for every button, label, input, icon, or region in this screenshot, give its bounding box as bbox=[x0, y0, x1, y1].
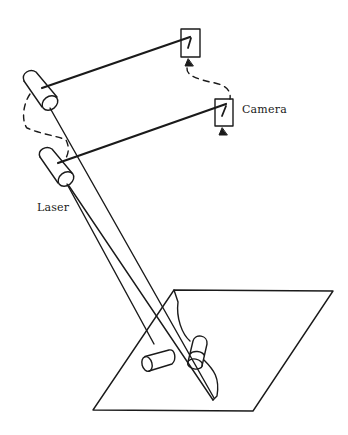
camera-upper bbox=[181, 29, 200, 66]
diagram-canvas bbox=[0, 0, 348, 435]
work-plane bbox=[93, 290, 333, 411]
dashed-link-lasers bbox=[24, 94, 69, 158]
object-cylinder-horizontal bbox=[140, 350, 175, 373]
beam-upper bbox=[42, 37, 190, 88]
laser-label: Laser bbox=[37, 201, 69, 214]
gripper-outline bbox=[174, 290, 218, 400]
laser-upper bbox=[23, 71, 60, 114]
camera-label: Camera bbox=[242, 103, 287, 116]
dashed-link-cameras bbox=[187, 68, 230, 99]
laser-lower bbox=[39, 148, 76, 190]
beam-lower bbox=[58, 104, 226, 163]
